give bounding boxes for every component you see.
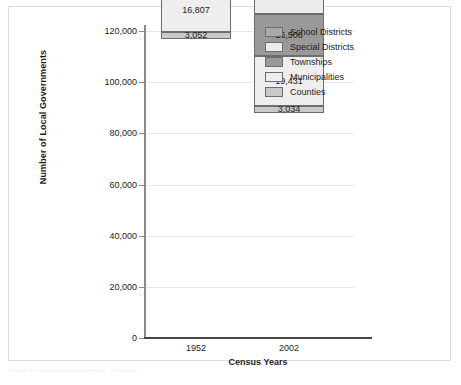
bar-segment[interactable]: 3,034 [254,106,324,114]
y-axis-tick-labels: 020,00040,00060,00080,000100,000120,000 [69,7,137,362]
legend-item[interactable]: Townships [265,54,415,69]
bar-segment[interactable]: 16,807 [161,0,231,32]
bar-group-1952[interactable]: 3,05216,80717,20212,34067,355 [161,39,231,338]
y-tick-mark [139,287,144,288]
legend-swatch [265,87,283,97]
x-axis-title: Census Years [144,357,372,367]
y-tick-label: 120,000 [79,26,137,36]
bar-group-2002[interactable]: 3,03419,43116,50635,35613,522 [254,113,324,338]
stacked-bar-chart: 020,00040,00060,00080,000100,000120,000 … [9,7,452,362]
bar-segment[interactable]: 35,356 [254,0,324,14]
legend-item[interactable]: Special Districts [265,39,415,54]
legend-label: School Districts [290,27,352,37]
bar-stack: 3,03419,43116,50635,35613,522 [254,113,324,338]
legend-label: Counties [290,87,326,97]
y-tick-mark [139,31,144,32]
legend-swatch [265,27,283,37]
x-tick-label-2002: 2002 [254,343,324,353]
legend-item[interactable]: Counties [265,84,415,99]
figure-caption: FIGURE 13.2 Composition of Local Governm… [10,368,450,374]
y-tick-mark [139,82,144,83]
bar-segment-value-label: 3,034 [278,104,301,114]
legend-item[interactable]: Municipalities [265,69,415,84]
chart-legend: School DistrictsSpecial DistrictsTownshi… [265,24,415,99]
y-tick-mark [139,236,144,237]
legend-item[interactable]: School Districts [265,24,415,39]
y-tick-label: 20,000 [79,282,137,292]
y-tick-mark [139,185,144,186]
legend-swatch [265,42,283,52]
page-canvas: 020,00040,00060,00080,000100,000120,000 … [0,0,461,385]
y-tick-label: 40,000 [79,231,137,241]
bar-stack: 3,05216,80717,20212,34067,355 [161,39,231,338]
bar-segment-value-label: 16,807 [182,5,210,15]
legend-label: Townships [290,57,332,67]
y-axis-title: Number of Local Governments [38,22,48,212]
bar-segment[interactable]: 3,052 [161,32,231,40]
legend-label: Special Districts [290,42,354,52]
bar-segment-value-label: 3,052 [185,30,208,40]
y-tick-mark [139,338,144,339]
y-tick-label: 0 [79,333,137,343]
y-tick-label: 100,000 [79,77,137,87]
y-tick-mark [139,133,144,134]
figure-frame: 020,00040,00060,00080,000100,000120,000 … [8,6,451,361]
y-tick-label: 60,000 [79,180,137,190]
y-axis-line [144,25,146,337]
y-tick-label: 80,000 [79,128,137,138]
legend-swatch [265,72,283,82]
legend-swatch [265,57,283,67]
x-tick-label-1952: 1952 [161,343,231,353]
legend-label: Municipalities [290,72,344,82]
